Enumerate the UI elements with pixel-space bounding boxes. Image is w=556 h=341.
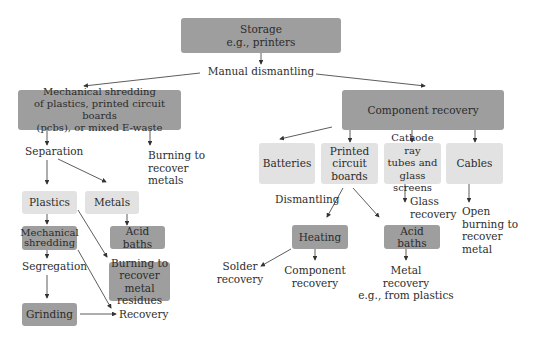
cables-box: Cables [446,143,503,184]
solder-recovery-label: Solder recovery [217,260,264,285]
pcb-line2: circuit [332,157,366,170]
heating-box: Heating [292,225,348,249]
open-line2: burning to [462,218,518,231]
metal-line2: recovery [358,277,453,290]
crt-line2: tubes and [388,157,438,170]
dismantling-label: Dismantling [275,193,340,206]
open-line4: metal [462,243,518,256]
pcb-box: Printed circuit boards [321,143,378,184]
mech-shredding-line2: of plastics, printed circuit boards [18,98,181,122]
residues-line1: Burning to [111,257,168,270]
mechanical-shredding-sub-box: Mechanical shredding [22,226,77,250]
glass-recovery-label: Glass recovery [410,195,457,220]
metals-box: Metals [85,191,139,214]
burning-line3: metals [148,174,205,187]
open-burning-label: Open burning to recover metal [462,205,518,255]
residues-line3: residues [117,294,162,307]
comp-sub-line2: recovery [284,277,345,290]
crt-box: Cathode ray tubes and glass screens [384,143,441,184]
burning-line2: recover [148,162,205,175]
plastics-label: Plastics [29,196,70,209]
comp-sub-line1: Component [284,264,345,277]
storage-label: Storage [240,23,282,36]
plastics-box: Plastics [22,191,77,214]
crt-line3: glass screens [384,170,441,195]
metals-label: Metals [94,196,130,209]
grinding-box: Grinding [22,303,77,326]
metal-line1: Metal [358,264,453,277]
glass-line1: Glass [410,195,457,208]
storage-example: e.g., printers [227,36,296,49]
pcb-line1: Printed [330,145,369,158]
open-line3: recover [462,230,518,243]
residues-line2: recover metal [109,269,170,294]
acid-baths-right-box: Acid baths [384,225,440,249]
pcb-line3: boards [331,170,367,183]
storage-box: Storage e.g., printers [181,18,341,53]
metal-line3: e.g., from plastics [358,289,453,302]
cables-label: Cables [457,157,493,170]
solder-line2: recovery [217,273,264,286]
mech-shredding-line3: (pcbs), or mixed E-waste [37,122,163,134]
glass-line2: recovery [410,208,457,221]
burning-recover-metals-label: Burning to recover metals [148,149,205,187]
separation-label: Separation [25,145,83,158]
heating-label: Heating [299,231,342,244]
metal-recovery-label: Metal recovery e.g., from plastics [358,264,453,302]
batteries-label: Batteries [263,157,312,170]
mech-sub-line2: shredding [24,238,75,249]
open-line1: Open [462,205,518,218]
recovery-label: Recovery [119,308,168,321]
batteries-box: Batteries [259,143,315,184]
acid-baths-right-label: Acid baths [384,225,440,250]
manual-dismantling-label: Manual dismantling [208,65,314,78]
component-recovery-sub-label: Component recovery [284,264,345,289]
crt-line1: Cathode ray [384,132,441,157]
solder-line1: Solder [217,260,264,273]
acid-baths-left-box: Acid baths [110,226,165,249]
mechanical-shredding-box: Mechanical shredding of plastics, printe… [18,90,181,130]
burning-line1: Burning to [148,149,205,162]
acid-baths-left-label: Acid baths [110,225,165,250]
burning-residues-box: Burning to recover metal residues [109,262,170,301]
segregation-label: Segregation [22,260,87,273]
grinding-label: Grinding [26,308,73,321]
component-recovery-label: Component recovery [367,104,478,117]
component-recovery-box: Component recovery [342,90,504,130]
mech-shredding-line1: Mechanical shredding [43,86,156,98]
